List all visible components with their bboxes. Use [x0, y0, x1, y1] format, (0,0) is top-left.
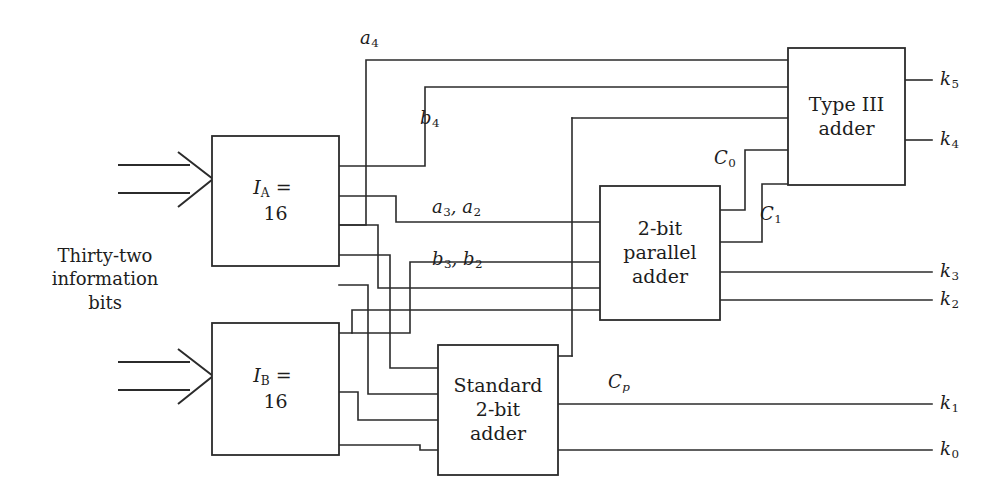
block-type3-adder-line2: adder — [819, 117, 875, 141]
output-k3: k3 — [940, 260, 959, 283]
block-ia-label: IA = 16 — [212, 136, 339, 266]
output-k2: k2 — [940, 288, 959, 311]
block-parallel-adder-line3: adder — [632, 265, 688, 289]
label-b2-base: b — [463, 248, 475, 269]
block-ib-value: 16 — [253, 390, 297, 414]
label-c0: C0 — [714, 147, 736, 170]
label-b3-sub: 3 — [444, 257, 452, 271]
label-b4-base: b — [420, 107, 432, 128]
input-caption-line2: information — [20, 267, 190, 290]
block-parallel-adder-label: 2-bit parallel adder — [600, 186, 720, 320]
output-k1-sub: 1 — [951, 401, 959, 415]
output-k4-sub: 4 — [951, 137, 959, 151]
output-k0-base: k — [940, 438, 951, 459]
block-ib-label: IB = 16 — [212, 323, 339, 455]
block-ib-subscript: B — [261, 374, 270, 388]
block-ia-value: 16 — [253, 202, 297, 226]
label-a4: a4 — [360, 27, 379, 50]
label-c1-sub: 1 — [774, 212, 782, 226]
wire-ib-to-standard-4 — [339, 445, 438, 450]
label-c0-base: C — [714, 147, 728, 168]
label-b2-sub: 2 — [475, 257, 483, 271]
input-caption: Thirty-two information bits — [20, 244, 190, 314]
wire-ia-to-standard-upper — [339, 255, 438, 368]
label-a3-sub: 3 — [443, 205, 451, 219]
label-a2-base: a — [462, 196, 473, 217]
output-k2-base: k — [940, 288, 951, 309]
label-cp-sub: p — [622, 380, 630, 394]
block-standard-adder-line1: Standard — [454, 374, 543, 398]
label-cp: Cp — [608, 371, 630, 394]
input-arrow-ia — [118, 152, 213, 207]
output-k5: k5 — [940, 68, 959, 91]
output-k0: k0 — [940, 438, 959, 461]
label-b4-sub: 4 — [432, 116, 440, 130]
block-ia-subscript: A — [261, 186, 270, 200]
output-k3-sub: 3 — [951, 269, 959, 283]
wire-ib-to-standard-3 — [339, 392, 438, 420]
label-a2-sub: 2 — [473, 205, 481, 219]
output-k5-base: k — [940, 68, 951, 89]
label-b4: b4 — [420, 107, 440, 130]
label-a3-base: a — [432, 196, 443, 217]
label-b3-b2: b3, b2 — [432, 248, 483, 271]
block-ib-symbol: I — [253, 364, 261, 386]
output-k1: k1 — [940, 392, 959, 415]
diagram-root: Thirty-two information bits IA = 16 IB =… — [0, 0, 993, 501]
input-caption-line1: Thirty-two — [20, 244, 190, 267]
output-k0-sub: 0 — [951, 447, 959, 461]
block-ia-symbol: I — [253, 176, 261, 198]
output-k1-base: k — [940, 392, 951, 413]
output-k3-base: k — [940, 260, 951, 281]
block-parallel-adder-line1: 2-bit — [638, 217, 682, 241]
label-a4-base: a — [360, 27, 371, 48]
label-c0-sub: 0 — [728, 156, 736, 170]
block-standard-adder-line2: 2-bit — [476, 398, 520, 422]
block-parallel-adder-line2: parallel — [623, 241, 696, 265]
label-a3-a2: a3, a2 — [432, 196, 481, 219]
label-a4-sub: 4 — [371, 36, 379, 50]
label-b3-base: b — [432, 248, 444, 269]
output-k4: k4 — [940, 128, 959, 151]
input-arrow-ib — [118, 349, 213, 404]
output-k2-sub: 2 — [951, 297, 959, 311]
output-k4-base: k — [940, 128, 951, 149]
wire-b3-b2-to-parallel — [339, 310, 600, 333]
label-c1: C1 — [760, 203, 782, 226]
label-c1-base: C — [760, 203, 774, 224]
block-standard-adder-line3: adder — [470, 422, 526, 446]
block-type3-adder-line1: Type III — [809, 93, 884, 117]
label-cp-base: C — [608, 371, 622, 392]
block-standard-adder-label: Standard 2-bit adder — [438, 345, 558, 475]
output-k5-sub: 5 — [951, 77, 959, 91]
block-type3-adder-label: Type III adder — [788, 48, 905, 185]
wire-ia-to-standard-lower — [339, 285, 438, 394]
input-caption-line3: bits — [20, 291, 190, 314]
